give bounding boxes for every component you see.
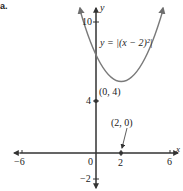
y-tick-4: 4 xyxy=(86,96,91,106)
x-tick-6: 6 xyxy=(167,157,172,167)
point-2-0 xyxy=(119,151,123,155)
y-tick-neg2: −2 xyxy=(80,174,91,184)
equation-label: y = |(x − 2)²| xyxy=(100,38,153,48)
x-axis-label: x xyxy=(176,145,180,154)
point-0-4 xyxy=(94,99,98,103)
x-tick-0: 0 xyxy=(88,157,93,167)
annotation-arrow xyxy=(122,128,127,148)
y-axis-label: y xyxy=(100,3,104,13)
y-tick-10: 10 xyxy=(82,17,92,27)
x-tick-2: 2 xyxy=(118,158,123,168)
annotation-2-0: (2, 0) xyxy=(111,118,133,128)
x-tick-neg6: −6 xyxy=(14,157,25,167)
annotation-0-4: (0, 4) xyxy=(99,87,121,97)
